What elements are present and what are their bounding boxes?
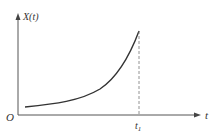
exponential-growth-plot: X(t) t O t1 bbox=[0, 0, 214, 135]
growth-curve bbox=[25, 31, 139, 107]
x-axis-arrow-icon bbox=[194, 113, 201, 118]
y-axis-arrow-icon bbox=[16, 13, 21, 20]
diagram-canvas: X(t) t O t1 bbox=[0, 0, 214, 135]
y-axis-label: X(t) bbox=[22, 11, 39, 23]
origin-label: O bbox=[6, 111, 14, 123]
x-axis-label: t bbox=[205, 109, 209, 121]
t1-label: t1 bbox=[135, 120, 141, 133]
